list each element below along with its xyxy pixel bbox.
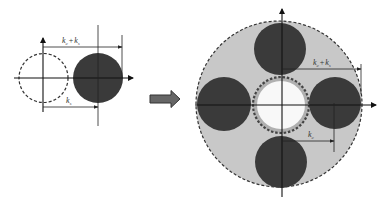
dark-circle-top xyxy=(254,23,306,75)
right-diagram: kc+ks kc xyxy=(195,9,376,197)
label-kc-plus-ks: kc+ks xyxy=(62,36,80,46)
right-block-arrow-icon xyxy=(150,91,180,108)
diagram-canvas: kc+ks ks kc+ks kc xyxy=(0,0,387,203)
dark-circle-right xyxy=(309,77,361,129)
dark-circle-bottom xyxy=(255,136,307,188)
label-ks: ks xyxy=(66,96,72,106)
dark-circle-left xyxy=(197,77,251,131)
label-kc-plus-ks: kc+ks xyxy=(313,58,331,68)
left-diagram: kc+ks ks xyxy=(14,25,133,126)
